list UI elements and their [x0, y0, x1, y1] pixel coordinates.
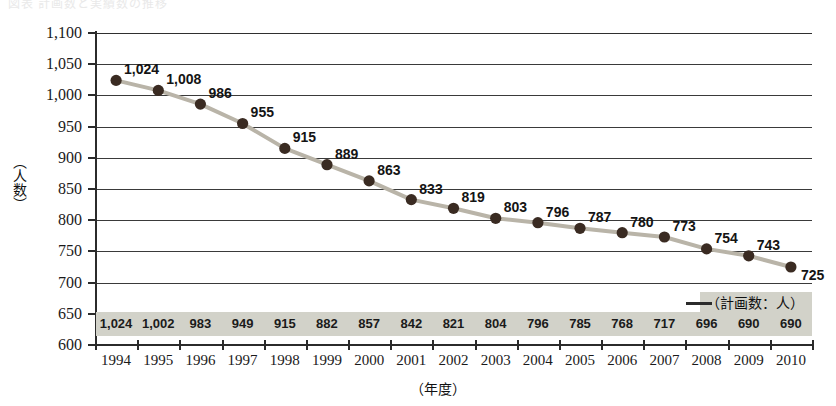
table-cell: 915 [264, 315, 306, 333]
y-axis-line [95, 31, 97, 347]
data-point-marker [279, 143, 290, 154]
table-cell: 717 [643, 315, 685, 333]
gridline [95, 158, 812, 159]
x-axis-tick-label: 2001 [390, 352, 432, 368]
data-point-marker [364, 175, 375, 186]
x-axis-line [95, 344, 812, 346]
data-point-label: 787 [588, 210, 611, 224]
data-point-marker [532, 217, 543, 228]
data-point-label: 803 [504, 200, 527, 214]
data-point-label: 1,024 [124, 62, 159, 76]
x-axis-tick-label: 2005 [559, 352, 601, 368]
x-axis-tick-label: 2004 [517, 352, 559, 368]
x-axis-tick [348, 340, 350, 350]
x-axis-tick [95, 340, 97, 350]
table-cell: 1,002 [137, 315, 179, 333]
y-axis-tick-label: 1,100 [24, 25, 82, 41]
y-axis-tick-label: 1,050 [24, 56, 82, 72]
gridline [95, 33, 812, 34]
chart-canvas: 図表 計画数と実績数の推移 （人数） 1,1001,0501,000950900… [0, 0, 836, 406]
y-axis-tick-label: 750 [24, 243, 82, 259]
data-point-marker [448, 203, 459, 214]
x-axis-tick-label: 2002 [433, 352, 475, 368]
data-point-label: 780 [630, 215, 653, 229]
x-axis-tick-label: 1994 [95, 352, 137, 368]
page-header-fragment: 図表 計画数と実績数の推移 [8, 0, 428, 10]
gridline [95, 64, 812, 65]
data-point-label: 833 [419, 182, 442, 196]
x-axis-tick [222, 340, 224, 350]
table-cell: 842 [390, 315, 432, 333]
y-axis-tick-label: 900 [24, 150, 82, 166]
x-axis-tick [179, 340, 181, 350]
data-point-marker [490, 213, 501, 224]
x-axis-tick-label: 1996 [179, 352, 221, 368]
x-axis-tick-label: 1995 [137, 352, 179, 368]
data-point-marker [195, 99, 206, 110]
x-axis-tick-label: 1997 [222, 352, 264, 368]
y-axis-tick-label: 1,000 [24, 87, 82, 103]
table-cell: 983 [179, 315, 221, 333]
x-axis-tick-label: 2006 [601, 352, 643, 368]
data-point-label: 1,008 [166, 72, 201, 86]
x-axis-tick-label: 2007 [643, 352, 685, 368]
x-axis-tick [728, 340, 730, 350]
data-point-label: 955 [251, 105, 274, 119]
x-axis-tick [306, 340, 308, 350]
x-axis-tick-label: 2008 [686, 352, 728, 368]
y-axis-title: （人数） [6, 155, 26, 211]
x-axis-tick [643, 340, 645, 350]
table-cell: 882 [306, 315, 348, 333]
legend-label: （計画数：人） [706, 294, 810, 312]
x-axis-tick [137, 340, 139, 350]
table-cell: 821 [433, 315, 475, 333]
table-cell: 768 [601, 315, 643, 333]
table-cell: 796 [517, 315, 559, 333]
gridline [95, 283, 812, 284]
x-axis-tick-label: 2009 [728, 352, 770, 368]
data-point-label: 725 [801, 268, 824, 282]
gridline [95, 220, 812, 221]
data-point-marker [111, 75, 122, 86]
table-cell: 857 [348, 315, 390, 333]
gridline [95, 189, 812, 190]
table-cell: 804 [475, 315, 517, 333]
y-axis-tick-label: 600 [24, 337, 82, 353]
data-point-label: 773 [672, 219, 695, 233]
table-cell: 690 [770, 315, 812, 333]
data-point-label: 743 [757, 238, 780, 252]
data-point-marker [406, 194, 417, 205]
table-cell: 949 [222, 315, 264, 333]
y-axis-tick-label: 850 [24, 181, 82, 197]
y-axis-tick-label: 950 [24, 119, 82, 135]
table-cell: 785 [559, 315, 601, 333]
x-axis-tick [390, 340, 392, 350]
data-point-marker [659, 231, 670, 242]
data-point-marker [617, 227, 628, 238]
x-axis-tick [601, 340, 603, 350]
x-axis-tick-label: 2010 [770, 352, 812, 368]
gridline [95, 127, 812, 128]
x-axis-tick [264, 340, 266, 350]
x-axis-tick-label: 2000 [348, 352, 390, 368]
data-point-marker [701, 243, 712, 254]
x-axis-tick [770, 340, 772, 350]
table-cell: 696 [686, 315, 728, 333]
data-point-label: 796 [546, 205, 569, 219]
x-axis-title: （年度） [378, 378, 498, 398]
x-axis-tick [685, 340, 687, 350]
data-point-label: 863 [377, 163, 400, 177]
x-axis-tick [432, 340, 434, 350]
x-axis-tick-label: 2003 [475, 352, 517, 368]
y-axis-tick-label: 800 [24, 212, 82, 228]
data-point-label: 986 [208, 86, 231, 100]
y-axis-tick-label: 700 [24, 275, 82, 291]
data-point-label: 819 [462, 190, 485, 204]
data-point-marker [574, 223, 585, 234]
gridline [95, 251, 812, 252]
gridline [95, 95, 812, 96]
y-axis-tick-label: 650 [24, 306, 82, 322]
data-point-label: 889 [335, 147, 358, 161]
table-cell: 690 [728, 315, 770, 333]
x-axis-tick [812, 340, 814, 350]
